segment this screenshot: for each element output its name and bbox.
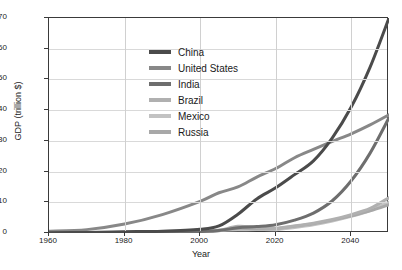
- gridline-vertical: [351, 18, 352, 231]
- legend-item-india[interactable]: India: [149, 76, 238, 92]
- x-tick-label: 1960: [28, 236, 68, 245]
- legend: ChinaUnited StatesIndiaBrazilMexicoRussi…: [149, 44, 238, 140]
- y-tick-label: 30: [0, 136, 7, 144]
- x-tick-label: 2040: [330, 236, 370, 245]
- plot-area: ChinaUnited StatesIndiaBrazilMexicoRussi…: [48, 17, 388, 232]
- legend-label: India: [178, 79, 200, 90]
- legend-label: Mexico: [178, 111, 210, 122]
- legend-label: Brazil: [178, 95, 203, 106]
- y-axis-title: GDP (trillion $): [13, 46, 23, 176]
- gridline-vertical: [125, 18, 126, 231]
- legend-item-brazil[interactable]: Brazil: [149, 92, 238, 108]
- x-tick-label: 1980: [104, 236, 144, 245]
- legend-swatch: [149, 98, 171, 102]
- legend-item-united-states[interactable]: United States: [149, 60, 238, 76]
- legend-swatch: [149, 50, 171, 54]
- x-tick-mark: [124, 232, 125, 236]
- legend-swatch: [149, 66, 171, 70]
- y-tick-label: 0: [0, 228, 7, 236]
- legend-item-russia[interactable]: Russia: [149, 124, 238, 140]
- x-axis-title: Year: [0, 249, 402, 259]
- legend-swatch: [149, 130, 171, 134]
- y-tick-label: 70: [0, 13, 7, 21]
- legend-swatch: [149, 114, 171, 118]
- y-tick-label: 20: [0, 167, 7, 175]
- y-tick-label: 40: [0, 105, 7, 113]
- legend-label: Russia: [178, 127, 209, 138]
- y-tick-label: 10: [0, 197, 7, 205]
- gridline-horizontal: [49, 202, 387, 203]
- x-tick-mark: [199, 232, 200, 236]
- x-tick-mark: [275, 232, 276, 236]
- gridline-horizontal: [49, 141, 387, 142]
- y-tick-label: 50: [0, 74, 7, 82]
- legend-item-china[interactable]: China: [149, 44, 238, 60]
- legend-label: China: [178, 47, 204, 58]
- legend-item-mexico[interactable]: Mexico: [149, 108, 238, 124]
- legend-label: United States: [178, 63, 238, 74]
- gdp-projection-chart: GDP (trillion $) 010203040506070 ChinaUn…: [0, 0, 402, 270]
- x-tick-label: 2000: [179, 236, 219, 245]
- gridline-horizontal: [49, 172, 387, 173]
- x-tick-mark: [350, 232, 351, 236]
- y-tick-label: 60: [0, 44, 7, 52]
- x-tick-label: 2020: [255, 236, 295, 245]
- x-tick-mark: [48, 232, 49, 236]
- gridline-vertical: [276, 18, 277, 231]
- legend-swatch: [149, 82, 171, 86]
